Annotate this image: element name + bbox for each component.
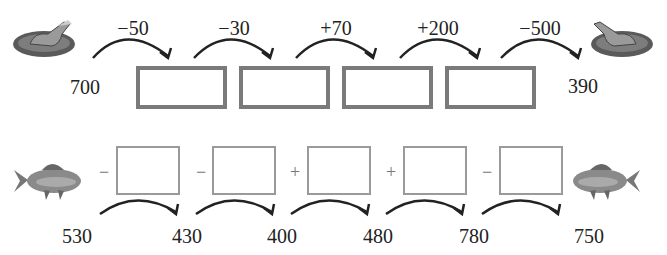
operation-label: −30: [214, 18, 254, 38]
end-value: 390: [568, 76, 598, 96]
value-label: 750: [574, 226, 604, 246]
answer-box[interactable]: [342, 66, 433, 109]
operator: −: [99, 163, 109, 181]
operator: −: [482, 163, 492, 181]
operator: +: [386, 163, 396, 181]
answer-box[interactable]: [499, 146, 563, 195]
value-label: 530: [62, 226, 92, 246]
operation-label: −50: [113, 18, 153, 38]
fish-icon: [14, 160, 82, 202]
value-label: 400: [267, 226, 297, 246]
answer-box[interactable]: [445, 66, 536, 109]
answer-box[interactable]: [116, 146, 180, 195]
operation-label: −500: [515, 18, 565, 38]
fish-icon: [572, 160, 640, 202]
operation-label: +200: [413, 18, 463, 38]
start-value: 700: [70, 77, 100, 97]
answer-box[interactable]: [212, 146, 276, 195]
operator: +: [290, 163, 300, 181]
answer-box[interactable]: [403, 146, 467, 195]
answer-box[interactable]: [307, 146, 371, 195]
answer-box[interactable]: [136, 66, 227, 109]
value-label: 480: [363, 226, 393, 246]
value-label: 780: [459, 226, 489, 246]
operator: −: [196, 163, 206, 181]
value-label: 430: [172, 226, 202, 246]
operation-label: +70: [316, 18, 356, 38]
answer-box[interactable]: [239, 66, 330, 109]
